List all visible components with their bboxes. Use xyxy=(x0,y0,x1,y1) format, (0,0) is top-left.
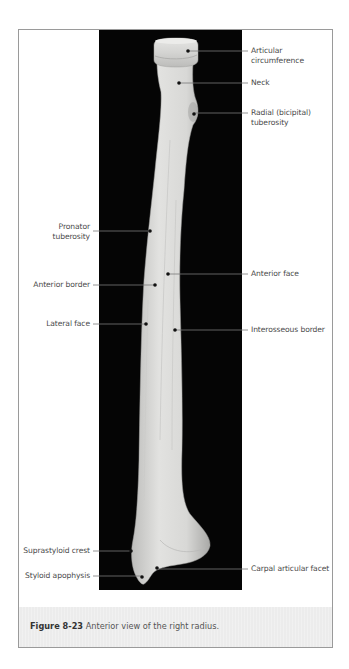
label-line: Radial (bicipital) xyxy=(251,108,311,118)
label-line: Anterior border xyxy=(33,280,90,290)
label-carpal-articular-facet: Carpal articular facet xyxy=(251,564,329,574)
label-line: Neck xyxy=(251,78,270,88)
label-anterior-border: Anterior border xyxy=(33,280,90,290)
figure-caption-text: Anterior view of the right radius. xyxy=(83,621,219,631)
label-line: Articular xyxy=(251,46,304,56)
label-anterior-face: Anterior face xyxy=(251,269,299,279)
label-suprastyloid-crest: Suprastyloid crest xyxy=(23,546,90,556)
label-line: Pronator xyxy=(53,222,90,232)
label-line: Carpal articular facet xyxy=(251,564,329,574)
figure-caption: Figure 8-23 Anterior view of the right r… xyxy=(30,621,219,631)
label-line: Styloid apophysis xyxy=(25,571,90,581)
label-line: Interosseous border xyxy=(251,325,325,335)
label-line: circumference xyxy=(251,56,304,66)
label-lateral-face: Lateral face xyxy=(46,319,90,329)
label-pronator-tuberosity: Pronator tuberosity xyxy=(53,222,90,242)
label-interosseous-border: Interosseous border xyxy=(251,325,325,335)
label-articular-circumference: Articular circumference xyxy=(251,46,304,66)
label-neck: Neck xyxy=(251,78,270,88)
label-line: Anterior face xyxy=(251,269,299,279)
label-styloid-apophysis: Styloid apophysis xyxy=(25,571,90,581)
radius-bone-shape xyxy=(132,62,211,584)
label-line: Lateral face xyxy=(46,319,90,329)
label-radial-tuberosity: Radial (bicipital) tuberosity xyxy=(251,108,311,128)
figure-number: Figure 8-23 xyxy=(30,621,83,631)
label-line: tuberosity xyxy=(251,118,311,128)
label-line: tuberosity xyxy=(53,232,90,242)
label-line: Suprastyloid crest xyxy=(23,546,90,556)
